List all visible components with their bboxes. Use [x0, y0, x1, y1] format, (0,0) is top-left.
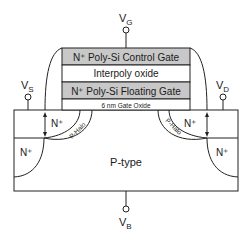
drain-ext-label: N⁺: [184, 118, 196, 129]
gate-terminal: [123, 27, 129, 48]
gate-label: VG: [119, 12, 133, 27]
source-deep-label: N⁺: [20, 147, 32, 158]
source-ext-label: N⁺: [51, 118, 63, 129]
source-label: VS: [21, 79, 34, 94]
floating-gate-label: N⁺ Poly-Si Floating Gate: [71, 86, 181, 97]
interpoly-label: Interpoly oxide: [93, 68, 158, 79]
substrate: [14, 110, 238, 191]
source-terminal: [25, 94, 31, 110]
body-label: VB: [119, 216, 132, 231]
body-terminal: [123, 191, 129, 212]
drain-deep-label: N⁺: [216, 147, 228, 158]
left-spacer-arc: [45, 48, 62, 110]
control-gate-label: N⁺ Poly-Si Control Gate: [73, 52, 180, 63]
substrate-label: P-type: [110, 156, 142, 168]
drain-label: VD: [216, 79, 229, 94]
gate-oxide-label: 6 nm Gate Oxide: [101, 102, 151, 109]
drain-terminal: [220, 94, 226, 110]
right-spacer-arc: [190, 48, 207, 110]
flash-cell-diagram: VG VS VD VB N⁺ Poly-Si Control Gate Inte…: [0, 0, 249, 239]
